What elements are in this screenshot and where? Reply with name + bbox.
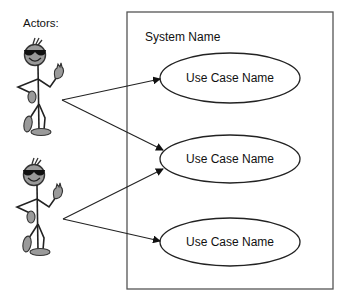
association-arrow[interactable] xyxy=(62,100,163,150)
use-case-2[interactable]: Use Case Name xyxy=(160,135,300,183)
association-arrow[interactable] xyxy=(63,219,160,241)
system-name: System Name xyxy=(145,30,221,44)
use-case-3[interactable]: Use Case Name xyxy=(160,218,300,266)
use-case-label: Use Case Name xyxy=(186,235,274,249)
use-case-label: Use Case Name xyxy=(186,71,274,85)
association-arrow[interactable] xyxy=(62,79,160,100)
use-case-diagram: Actors: System Name Use Case Name Use Ca… xyxy=(0,0,351,303)
stick-figure-sunglasses-icon xyxy=(18,38,64,136)
actor-2[interactable] xyxy=(17,158,63,256)
use-case-label: Use Case Name xyxy=(186,152,274,166)
association-arrow[interactable] xyxy=(63,169,163,219)
actor-1[interactable] xyxy=(18,38,64,136)
actors-label: Actors: xyxy=(23,17,59,29)
use-case-1[interactable]: Use Case Name xyxy=(160,53,300,103)
stick-figure-sunglasses-icon xyxy=(17,158,63,256)
